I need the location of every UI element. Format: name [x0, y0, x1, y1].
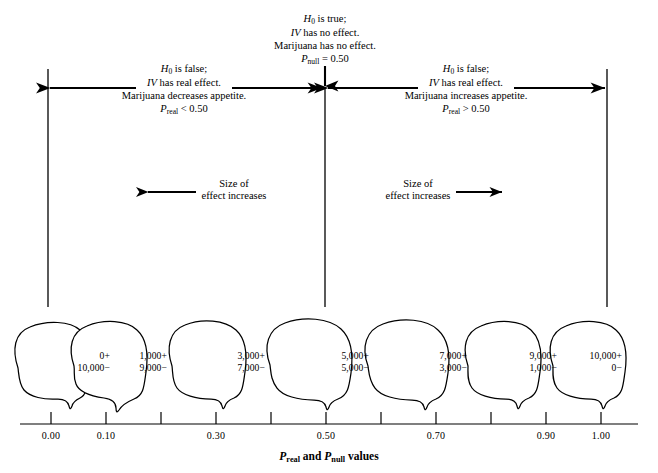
annotation-left-line3: Marijuana decreases appetite.	[84, 89, 284, 102]
blob-label-0.10: 1,000+ 9,000−	[75, 350, 167, 375]
blob-minus-1.00: 0−	[530, 362, 622, 374]
p-value-effect-size-diagram: H0 is true; IV has no effect. Marijuana …	[0, 0, 658, 473]
annotation-null-true: H0 is true; IV has no effect. Marijuana …	[225, 12, 425, 66]
blob-minus-0.50: 5,000−	[277, 362, 369, 374]
blob-plus-0.10: 1,000+	[75, 350, 167, 362]
annotation-left-line1: H0 is false;	[84, 62, 284, 76]
annotation-effect-size-left: Size of effect increases	[174, 178, 294, 202]
iv-symbol: IV	[291, 27, 301, 38]
effect-right-line2: effect increases	[358, 190, 478, 202]
p-real-value-right: > 0.50	[460, 103, 490, 114]
annotation-left-line2: IV has real effect.	[84, 76, 284, 89]
blob-plus-0.30: 3,000+	[173, 350, 265, 362]
p-null-subscript: null	[308, 57, 320, 66]
blob-minus-0.10: 9,000−	[75, 362, 167, 374]
annotation-null-true-line1: H0 is true;	[225, 12, 425, 26]
effect-left-line2: effect increases	[174, 190, 294, 202]
p-real-value-left: < 0.50	[178, 103, 208, 114]
annotation-null-true-line2: IV has no effect.	[225, 26, 425, 39]
annotation-right-line2: IV has real effect.	[366, 76, 566, 89]
blob-minus-0.30: 7,000−	[173, 362, 265, 374]
iv-symbol-left: IV	[147, 77, 157, 88]
p-real-subscript-right: real	[449, 107, 460, 116]
axis-label-0.00: 0.00	[21, 430, 81, 441]
p-null-value: = 0.50	[319, 53, 349, 64]
iv-symbol-right: IV	[429, 77, 439, 88]
annotation-null-true-line3: Marijuana has no effect.	[225, 39, 425, 52]
blob-plus-0.70: 7,000+	[375, 350, 467, 362]
h0-text: is true;	[315, 13, 347, 24]
annotation-null-false-right: H0 is false; IV has real effect. Marijua…	[366, 62, 566, 116]
axis-label-0.50: 0.50	[296, 430, 356, 441]
annotation-right-line3: Marijuana increases appetite.	[366, 89, 566, 102]
axis-label-0.90: 0.90	[516, 430, 576, 441]
effect-right-line1: Size of	[358, 178, 478, 190]
axis-title-sub-null: null	[331, 455, 345, 464]
annotation-null-false-left: H0 is false; IV has real effect. Marijua…	[84, 62, 284, 116]
p-real-subscript-left: real	[167, 107, 178, 116]
iv-text-right: has real effect.	[439, 77, 503, 88]
annotation-right-line1: H0 is false;	[366, 62, 566, 76]
iv-text: has no effect.	[301, 27, 360, 38]
annotation-right-line4: Preal > 0.50	[366, 102, 566, 116]
axis-title-sub-real: real	[286, 455, 300, 464]
axis-group	[20, 412, 638, 424]
annotation-effect-size-right: Size of effect increases	[358, 178, 478, 202]
axis-label-0.30: 0.30	[186, 430, 246, 441]
axis-label-1.00: 1.00	[571, 430, 631, 441]
blob-label-0.70: 7,000+ 3,000−	[375, 350, 467, 375]
axis-label-0.10: 0.10	[76, 430, 136, 441]
blob-label-0.50: 5,000+ 5,000−	[277, 350, 369, 375]
axis-title-values: values	[345, 450, 379, 462]
blob-label-0.30: 3,000+ 7,000−	[173, 350, 265, 375]
annotation-left-line4: Preal < 0.50	[84, 102, 284, 116]
blob-plus-0.50: 5,000+	[277, 350, 369, 362]
axis-title-and: and	[300, 450, 324, 462]
blob-plus-1.00: 10,000+	[530, 350, 622, 362]
axis-label-0.70: 0.70	[406, 430, 466, 441]
effect-left-line1: Size of	[174, 178, 294, 190]
blob-label-1.00: 10,000+ 0−	[530, 350, 622, 375]
h0-text-right: is false;	[454, 63, 489, 74]
h0-text-left: is false;	[172, 63, 207, 74]
iv-text-left: has real effect.	[157, 77, 221, 88]
axis-title: Preal and Pnull values	[0, 450, 658, 464]
blob-minus-0.70: 3,000−	[375, 362, 467, 374]
